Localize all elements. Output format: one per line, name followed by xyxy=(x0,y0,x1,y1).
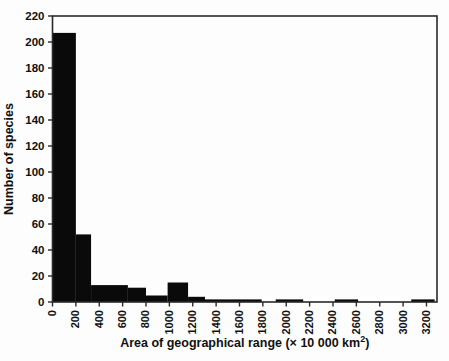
x-axis-title: Area of geographical range (× 10 000 km2… xyxy=(120,334,369,350)
x-tick-label: 3000 xyxy=(397,310,409,334)
y-tick-label: 140 xyxy=(25,114,44,126)
histogram-figure: 0204060801001201401601802002200200400600… xyxy=(0,0,449,361)
y-tick-label: 0 xyxy=(38,296,44,308)
y-tick-label: 220 xyxy=(25,10,44,22)
histogram-bar xyxy=(146,296,168,303)
x-tick-label: 400 xyxy=(93,310,105,328)
y-tick-label: 80 xyxy=(32,192,45,204)
x-tick-label: 800 xyxy=(139,310,151,328)
x-tick-label: 1400 xyxy=(210,310,222,334)
x-tick-label: 2200 xyxy=(303,310,315,334)
x-tick-label: 600 xyxy=(116,310,128,328)
x-tick-label: 1000 xyxy=(163,310,175,334)
histogram-bar xyxy=(91,285,128,302)
x-tick-label: 1600 xyxy=(233,310,245,334)
histogram-bar xyxy=(168,283,188,303)
histogram-bar xyxy=(76,234,91,302)
histogram-chart: 0204060801001201401601802002200200400600… xyxy=(0,0,449,361)
x-tick-label: 2400 xyxy=(326,310,338,334)
x-tick-label: 2000 xyxy=(280,310,292,334)
y-tick-label: 120 xyxy=(25,140,44,152)
y-tick-label: 160 xyxy=(25,88,44,100)
histogram-bar xyxy=(53,33,76,302)
x-tick-label: 200 xyxy=(69,310,81,328)
x-tick-label: 1800 xyxy=(256,310,268,334)
y-tick-label: 100 xyxy=(25,166,44,178)
x-tick-label: 2600 xyxy=(350,310,362,334)
x-tick-label: 2800 xyxy=(373,310,385,334)
x-tick-label: 1200 xyxy=(186,310,198,334)
y-axis-title: Number of species xyxy=(2,103,16,215)
y-tick-label: 200 xyxy=(25,36,44,48)
y-tick-label: 60 xyxy=(32,218,45,230)
y-tick-label: 20 xyxy=(32,270,45,282)
histogram-bar xyxy=(128,288,146,302)
x-tick-label: 3200 xyxy=(420,310,432,334)
y-tick-label: 40 xyxy=(32,244,45,256)
y-tick-label: 180 xyxy=(25,62,44,74)
x-tick-label: 0 xyxy=(46,310,58,316)
